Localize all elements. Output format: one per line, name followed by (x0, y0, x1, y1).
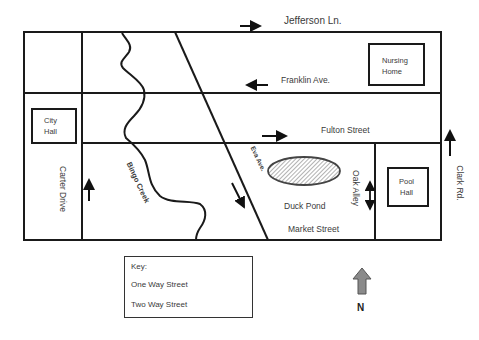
franklin-ave-label: Franklin Ave. (281, 75, 330, 85)
eva-ave-line (175, 32, 268, 240)
nursing-home-label: Nursing Home (382, 55, 408, 77)
carter-drive-label: Carter Drive (58, 166, 68, 212)
city-hall-label: City Hall (44, 115, 57, 137)
compass-north-label: N (357, 302, 364, 313)
key-title: Key: (131, 262, 147, 271)
fulton-street-label: Fulton Street (321, 125, 370, 135)
north-arrow-icon (353, 268, 371, 294)
eva-arrow-icon (232, 183, 244, 207)
oak-alley-label: Oak Alley (351, 170, 361, 206)
key-two-way-label: Two Way Street (131, 300, 187, 309)
map-key: Key: One Way Street Two Way Street (124, 256, 253, 318)
key-one-way-label: One Way Street (131, 280, 188, 289)
market-street-label: Market Street (288, 224, 339, 234)
pool-hall-label: Pool Hall (399, 176, 414, 198)
duck-pond (268, 157, 340, 185)
duck-pond-label: Duck Pond (284, 201, 326, 211)
bingo-creek (121, 33, 205, 240)
clark-rd-label: Clark Rd. (455, 165, 465, 200)
jefferson-ln-label: Jefferson Ln. (284, 15, 342, 26)
